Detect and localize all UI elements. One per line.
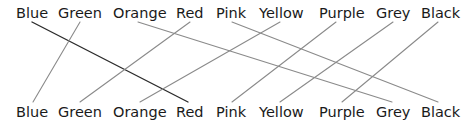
top-label-pink: Pink [216,5,247,21]
connection-lines [32,22,438,102]
top-row-labels: BlueGreenOrangeRedPinkYellowPurpleGreyBl… [16,5,461,21]
bottom-label-black: Black [421,104,461,120]
connection-grey-to-yellow [280,22,393,102]
connection-red-to-green [80,22,190,102]
connection-yellow-to-orange [140,22,280,102]
connection-orange-to-grey [138,22,392,102]
top-label-yellow: Yellow [258,5,304,21]
bottom-label-blue: Blue [16,104,48,120]
matching-diagram: BlueGreenOrangeRedPinkYellowPurpleGreyBl… [0,0,474,125]
bottom-label-purple: Purple [319,104,365,120]
top-label-green: Green [58,5,102,21]
connection-blue-to-red [32,22,188,102]
top-label-blue: Blue [16,5,48,21]
top-label-black: Black [421,5,461,21]
top-label-purple: Purple [319,5,365,21]
bottom-row-labels: BlueGreenOrangeRedPinkYellowPurpleGreyBl… [16,104,461,120]
top-label-grey: Grey [376,5,411,21]
bottom-label-green: Green [58,104,102,120]
bottom-label-pink: Pink [216,104,247,120]
connection-purple-to-pink [232,22,336,102]
bottom-label-orange: Orange [113,104,167,120]
bottom-label-red: Red [176,104,204,120]
top-label-red: Red [176,5,204,21]
bottom-label-grey: Grey [376,104,411,120]
top-label-orange: Orange [113,5,167,21]
connection-black-to-purple [342,22,438,102]
bottom-label-yellow: Yellow [258,104,304,120]
connection-pink-to-black [232,22,438,102]
